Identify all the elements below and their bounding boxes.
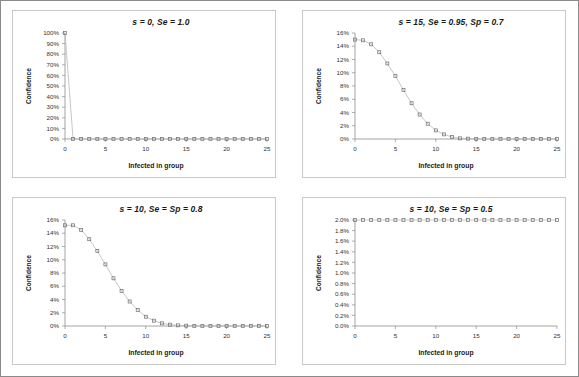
svg-text:0%: 0% xyxy=(50,135,59,142)
svg-text:25: 25 xyxy=(264,332,271,339)
svg-text:1.2%: 1.2% xyxy=(335,259,350,266)
svg-text:100%: 100% xyxy=(43,29,59,36)
svg-text:2.0%: 2.0% xyxy=(335,216,350,223)
svg-text:0: 0 xyxy=(353,145,357,152)
svg-text:10%: 10% xyxy=(337,69,350,76)
svg-text:12%: 12% xyxy=(47,243,60,250)
svg-text:5: 5 xyxy=(394,145,398,152)
figure-container: s = 0, Se = 1.0 Confidence Infected in g… xyxy=(0,0,579,377)
svg-text:8%: 8% xyxy=(340,82,349,89)
svg-text:16%: 16% xyxy=(337,29,350,36)
svg-text:90%: 90% xyxy=(47,40,60,47)
svg-text:5: 5 xyxy=(394,332,398,339)
chart-panel-top-left: s = 0, Se = 1.0 Confidence Infected in g… xyxy=(12,10,276,178)
svg-text:60%: 60% xyxy=(47,72,60,79)
chart-panel-bottom-right: s = 10, Se = Sp = 0.5 Confidence Infecte… xyxy=(302,197,566,365)
svg-text:25: 25 xyxy=(264,145,271,152)
svg-text:20: 20 xyxy=(513,332,520,339)
svg-text:10: 10 xyxy=(432,332,439,339)
svg-text:0: 0 xyxy=(63,332,67,339)
chart-panel-top-right: s = 15, Se = 0.95, Sp = 0.7 Confidence I… xyxy=(302,10,566,178)
svg-text:25: 25 xyxy=(554,332,561,339)
svg-text:12%: 12% xyxy=(337,56,350,63)
svg-text:14%: 14% xyxy=(47,229,60,236)
svg-text:25: 25 xyxy=(554,145,561,152)
svg-text:40%: 40% xyxy=(47,93,60,100)
svg-text:20: 20 xyxy=(513,145,520,152)
svg-text:6%: 6% xyxy=(340,95,349,102)
svg-text:14%: 14% xyxy=(337,42,350,49)
svg-text:0: 0 xyxy=(353,332,357,339)
svg-text:0%: 0% xyxy=(50,322,59,329)
svg-text:5: 5 xyxy=(104,332,108,339)
svg-text:4%: 4% xyxy=(50,296,59,303)
svg-text:0.4%: 0.4% xyxy=(335,301,350,308)
svg-text:0.2%: 0.2% xyxy=(335,312,350,319)
svg-text:5: 5 xyxy=(104,145,108,152)
svg-text:15: 15 xyxy=(473,145,480,152)
svg-text:6%: 6% xyxy=(50,282,59,289)
svg-text:80%: 80% xyxy=(47,50,60,57)
svg-text:15: 15 xyxy=(473,332,480,339)
svg-text:10%: 10% xyxy=(47,256,60,263)
svg-text:10: 10 xyxy=(432,145,439,152)
svg-text:4%: 4% xyxy=(340,109,349,116)
svg-text:0: 0 xyxy=(63,145,67,152)
svg-text:50%: 50% xyxy=(47,82,60,89)
svg-text:0%: 0% xyxy=(340,135,349,142)
svg-text:15: 15 xyxy=(183,332,190,339)
svg-text:10: 10 xyxy=(142,332,149,339)
chart-panel-bottom-left: s = 10, Se = Sp = 0.8 Confidence Infecte… xyxy=(12,197,276,365)
svg-text:0.6%: 0.6% xyxy=(335,290,350,297)
svg-text:10: 10 xyxy=(142,145,149,152)
plot-area: 0%2%4%6%8%10%12%14%16%0510152025 xyxy=(13,198,277,366)
svg-text:10%: 10% xyxy=(47,125,60,132)
svg-text:1.4%: 1.4% xyxy=(335,248,350,255)
svg-text:2%: 2% xyxy=(340,122,349,129)
svg-text:20%: 20% xyxy=(47,114,60,121)
svg-text:1.0%: 1.0% xyxy=(335,269,350,276)
svg-text:20: 20 xyxy=(223,145,230,152)
svg-text:15: 15 xyxy=(183,145,190,152)
svg-text:0.8%: 0.8% xyxy=(335,280,350,287)
svg-text:8%: 8% xyxy=(50,269,59,276)
plot-area: 0%2%4%6%8%10%12%14%16%0510152025 xyxy=(303,11,567,179)
svg-text:30%: 30% xyxy=(47,103,60,110)
svg-text:2%: 2% xyxy=(50,309,59,316)
svg-text:1.8%: 1.8% xyxy=(335,227,350,234)
plot-area: 0%10%20%30%40%50%60%70%80%90%100%0510152… xyxy=(13,11,277,179)
svg-text:1.6%: 1.6% xyxy=(335,237,350,244)
plot-area: 0.0%0.2%0.4%0.6%0.8%1.0%1.2%1.4%1.6%1.8%… xyxy=(303,198,567,366)
svg-text:0.0%: 0.0% xyxy=(335,322,350,329)
svg-text:16%: 16% xyxy=(47,216,60,223)
svg-text:20: 20 xyxy=(223,332,230,339)
svg-text:70%: 70% xyxy=(47,61,60,68)
